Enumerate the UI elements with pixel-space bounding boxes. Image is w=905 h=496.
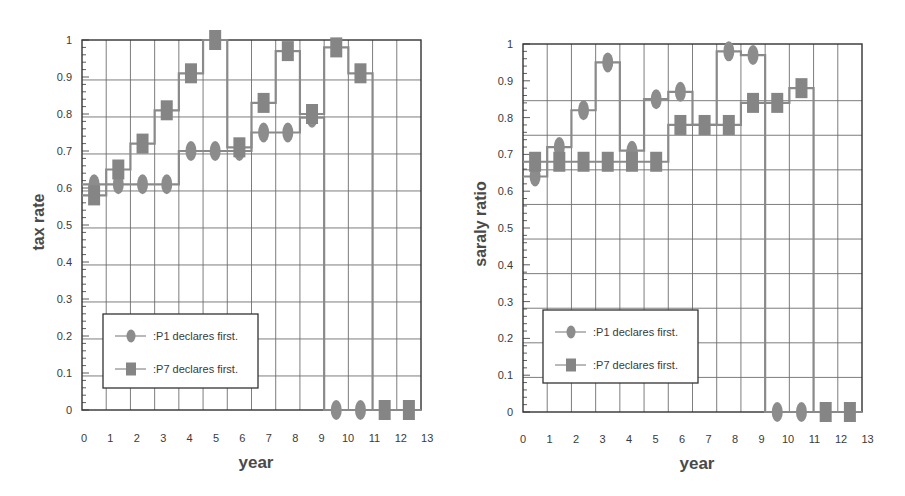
square-marker [820, 402, 832, 422]
x-tick-label: 9 [758, 433, 764, 445]
x-tick-label: 1 [546, 433, 552, 445]
ellipse-marker [772, 402, 783, 422]
x-tick-label: 4 [626, 433, 632, 445]
y-tick-label: 0.7 [498, 148, 513, 160]
y-tick-label: 0 [507, 406, 513, 418]
y-tick-label: 0.2 [498, 332, 513, 344]
square-marker [578, 152, 590, 172]
y-tick-label: 0.9 [498, 75, 513, 87]
x-tick-label: 8 [732, 433, 738, 445]
legend: :P1 declares first.:P7 declares first. [543, 310, 698, 383]
square-marker [674, 115, 686, 135]
ellipse-marker [723, 41, 734, 61]
x-tick-label: 10 [782, 433, 794, 445]
ellipse-marker [796, 402, 807, 422]
x-tick-label: 12 [835, 433, 847, 445]
y-tick-label: 0.4 [498, 259, 513, 271]
x-tick-label: 3 [599, 433, 605, 445]
legend-label-p7: :P7 declares first. [593, 359, 678, 371]
square-marker [650, 152, 662, 172]
x-tick-label: 0 [520, 433, 526, 445]
y-tick-label: 0.5 [498, 222, 513, 234]
legend-ellipse-icon [567, 326, 576, 339]
ellipse-marker [578, 100, 589, 120]
square-marker [699, 115, 711, 135]
ellipse-marker [748, 45, 759, 65]
y-tick-label: 0.6 [498, 185, 513, 197]
legend-square-icon [566, 359, 576, 372]
square-marker [795, 78, 807, 98]
ellipse-marker [651, 89, 662, 109]
x-axis-label: year [680, 454, 715, 473]
x-tick-label: 11 [809, 433, 820, 445]
square-marker [602, 152, 614, 172]
legend-label-p1: :P1 declares first. [593, 326, 678, 338]
y-tick-label: 1 [507, 38, 513, 50]
salary-ratio-chart: 00.10.20.30.40.50.60.70.80.9101234567891… [0, 0, 905, 496]
y-tick-label: 0.8 [498, 112, 513, 124]
square-marker [626, 152, 638, 172]
square-marker [553, 152, 565, 172]
square-marker [529, 152, 541, 172]
x-tick-label: 13 [861, 433, 873, 445]
square-marker [844, 402, 856, 422]
square-marker [723, 115, 735, 135]
x-tick-label: 2 [573, 433, 579, 445]
y-tick-label: 0.3 [498, 296, 513, 308]
y-tick-label: 0.1 [498, 369, 513, 381]
ellipse-marker [675, 82, 686, 102]
square-marker [747, 93, 759, 113]
square-marker [771, 93, 783, 113]
x-tick-label: 6 [679, 433, 685, 445]
x-tick-label: 7 [705, 433, 711, 445]
x-tick-label: 5 [652, 433, 658, 445]
y-axis-label: saraly ratio [472, 181, 489, 267]
legend-box [543, 310, 698, 383]
salary-ratio-chart-svg: 00.10.20.30.40.50.60.70.80.9101234567891… [0, 0, 905, 496]
ellipse-marker [602, 52, 613, 72]
